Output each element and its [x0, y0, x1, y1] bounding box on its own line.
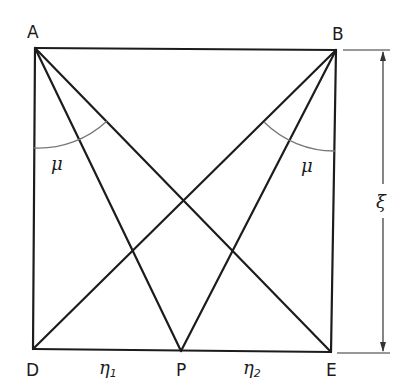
label-b: B — [332, 24, 344, 44]
label-mu-right: μ — [301, 155, 313, 176]
label-xi: ξ — [376, 191, 387, 212]
line-ap — [35, 48, 181, 351]
edge-ad — [33, 48, 35, 349]
arrowhead-up-icon — [380, 51, 386, 61]
label-p: P — [176, 360, 186, 380]
label-mu-left: μ — [51, 153, 63, 174]
line-bp — [181, 50, 336, 351]
label-a: A — [27, 22, 39, 42]
angle-arc-left — [34, 121, 107, 148]
edge-be — [331, 50, 336, 352]
angle-arc-right — [264, 122, 335, 151]
label-d: D — [26, 360, 39, 380]
arrowhead-down-icon — [380, 342, 386, 352]
label-eta1: η1 — [99, 357, 117, 380]
geometry-diagram: A B D P E μ μ η1 η2 ξ — [0, 0, 410, 387]
label-e: E — [326, 360, 337, 380]
line-bd — [33, 50, 336, 349]
label-eta2: η2 — [243, 357, 261, 380]
edge-ab — [35, 48, 336, 50]
